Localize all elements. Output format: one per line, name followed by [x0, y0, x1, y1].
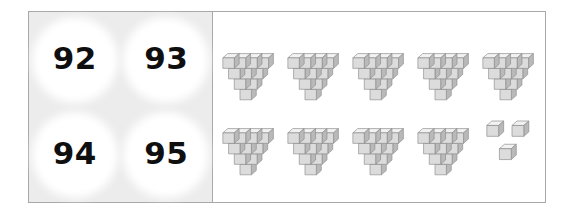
block-pyramid	[351, 109, 409, 171]
number-choice-panel: 92 93 94 95	[29, 12, 213, 202]
block-row	[221, 105, 539, 171]
number-choice-label: 92	[53, 43, 97, 74]
activity-card: 92 93 94 95	[28, 11, 546, 203]
number-choice-92[interactable]: 92	[39, 24, 111, 96]
loose-cubes-group	[481, 109, 543, 171]
block-illustration-panel	[213, 12, 545, 202]
block-pyramid	[286, 109, 344, 171]
number-choice-95[interactable]: 95	[130, 119, 202, 191]
number-choice-94[interactable]: 94	[39, 119, 111, 191]
block-pyramid	[416, 109, 474, 171]
block-pyramid	[221, 34, 279, 96]
block-pyramid	[221, 109, 279, 171]
block-pyramid	[416, 34, 474, 96]
block-row	[221, 30, 539, 96]
block-rows-container	[221, 30, 539, 188]
number-choice-label: 95	[144, 138, 188, 169]
number-choice-label: 93	[144, 43, 188, 74]
worksheet-screen: 92 93 94 95	[0, 0, 568, 215]
number-choice-label: 94	[53, 138, 97, 169]
block-pyramid	[351, 34, 409, 96]
block-pyramid	[481, 34, 539, 96]
number-choice-93[interactable]: 93	[130, 24, 202, 96]
block-pyramid	[286, 34, 344, 96]
